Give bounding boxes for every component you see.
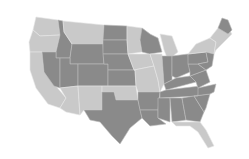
state-region-ms — [158, 98, 170, 122]
state-region-wy — [70, 44, 104, 64]
state-region-ks — [108, 70, 136, 86]
state-region-ar — [138, 92, 160, 110]
state-region-nd — [103, 25, 127, 40]
state-region-ny — [188, 38, 216, 54]
state-region-in — [162, 56, 172, 84]
us-choropleth-map — [0, 0, 249, 159]
state-region-wi — [140, 28, 162, 54]
state-region-sd — [103, 40, 128, 54]
state-region-co — [78, 64, 108, 86]
state-region-oh — [172, 54, 190, 78]
us-map-svg — [0, 0, 249, 159]
state-region-fl — [172, 122, 214, 148]
